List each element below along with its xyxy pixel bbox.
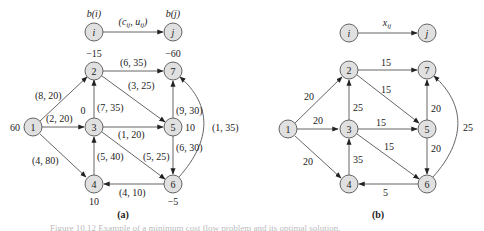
node-b-1-label: 1 bbox=[286, 124, 291, 135]
edge-label-1-3: (2, 20) bbox=[46, 113, 73, 125]
edge-label-6-4: (4, 10) bbox=[119, 187, 146, 199]
legend-edge-label: (cij, uij) bbox=[119, 16, 149, 29]
edge-label-b-4-3: 35 bbox=[353, 154, 363, 165]
node-6-label: 6 bbox=[171, 179, 176, 190]
supply-5: 10 bbox=[185, 122, 195, 133]
edge-b-6-7 bbox=[433, 76, 458, 177]
supply-2: −15 bbox=[86, 48, 102, 59]
node-b-2-label: 2 bbox=[347, 65, 352, 76]
edge-label-b-1-3: 20 bbox=[313, 115, 323, 126]
figure-caption: Figure 10.12 Example of a minimum cost f… bbox=[50, 223, 340, 231]
supply-4: 10 bbox=[89, 196, 99, 207]
edge-label-4-3: (5, 40) bbox=[97, 151, 124, 163]
edge-label-b-3-2: 25 bbox=[353, 102, 363, 113]
node-5-label: 5 bbox=[171, 122, 176, 133]
supply-3: 0 bbox=[81, 105, 86, 116]
edge-label-b-6-7: 25 bbox=[463, 122, 473, 133]
node-i-label: i bbox=[93, 27, 96, 38]
figure-canvas: b(i) b(j) (cij, uij) i j (8, 20) bbox=[0, 0, 484, 231]
edge-label-b-3-5: 15 bbox=[376, 117, 386, 128]
caption-a: (a) bbox=[117, 209, 129, 221]
node-7-label: 7 bbox=[171, 66, 176, 77]
diagram-b: xij i j 20 20 20 25 1 bbox=[279, 17, 473, 221]
edge-labels-a: (8, 20) (2, 20) (4, 80) (7, 35) (6, 35) … bbox=[32, 57, 239, 199]
nodes-b: 1 2 3 4 5 6 7 bbox=[279, 61, 436, 193]
edge-label-3-6: (5, 25) bbox=[143, 151, 170, 163]
edge-label-2-7: (6, 35) bbox=[120, 57, 147, 69]
edge-label-b-2-5: 15 bbox=[381, 84, 391, 95]
edge-label-b-1-4: 20 bbox=[303, 156, 313, 167]
node-b-4-label: 4 bbox=[347, 179, 352, 190]
nodes-a: 1 2 3 4 5 6 7 bbox=[24, 62, 182, 193]
node-b-7-label: 7 bbox=[425, 65, 430, 76]
edge-label-b-5-7: 20 bbox=[431, 103, 441, 114]
node-i-b-label: i bbox=[348, 28, 351, 39]
edge-label-5-6: (6, 30) bbox=[176, 142, 203, 154]
node-3-label: 3 bbox=[92, 122, 97, 133]
edge-label-1-4: (4, 80) bbox=[32, 155, 59, 167]
caption-b: (b) bbox=[372, 209, 384, 221]
edge-b-2-5 bbox=[357, 75, 419, 123]
legend-flow-label: xij bbox=[382, 17, 391, 30]
legend-b: xij i j bbox=[340, 17, 436, 42]
edge-label-3-2: (7, 35) bbox=[97, 102, 124, 114]
supply-7: −60 bbox=[165, 48, 181, 59]
node-1-label: 1 bbox=[31, 122, 36, 133]
edge-labels-b: 20 20 20 25 15 15 15 15 35 20 20 5 25 bbox=[303, 57, 473, 198]
edge-label-b-5-6: 20 bbox=[431, 143, 441, 154]
edge-label-1-2: (8, 20) bbox=[35, 90, 62, 102]
legend-from-supply: b(i) bbox=[87, 8, 102, 20]
legend-a: b(i) b(j) (cij, uij) i j bbox=[85, 8, 182, 41]
edge-b-1-4 bbox=[295, 136, 341, 178]
edge-label-3-5: (1, 20) bbox=[118, 129, 145, 141]
node-2-label: 2 bbox=[92, 66, 97, 77]
supply-6: −5 bbox=[168, 196, 179, 207]
diagram-a: b(i) b(j) (cij, uij) i j (8, 20) bbox=[10, 8, 239, 221]
edge-label-5-7: (9, 30) bbox=[176, 105, 203, 117]
node-b-3-label: 3 bbox=[347, 124, 352, 135]
node-b-6-label: 6 bbox=[425, 179, 430, 190]
edge-label-b-1-2: 20 bbox=[304, 91, 314, 102]
edge-label-2-5: (3, 25) bbox=[128, 80, 155, 92]
edge-label-6-7: (1, 35) bbox=[212, 122, 239, 134]
edge-label-b-3-6: 15 bbox=[384, 141, 394, 152]
edge-label-b-6-4: 5 bbox=[383, 187, 388, 198]
legend-to-supply: b(j) bbox=[166, 8, 181, 20]
supply-1: 60 bbox=[10, 122, 20, 133]
node-b-5-label: 5 bbox=[425, 124, 430, 135]
edge-label-b-2-7: 15 bbox=[381, 57, 391, 68]
node-4-label: 4 bbox=[92, 179, 97, 190]
